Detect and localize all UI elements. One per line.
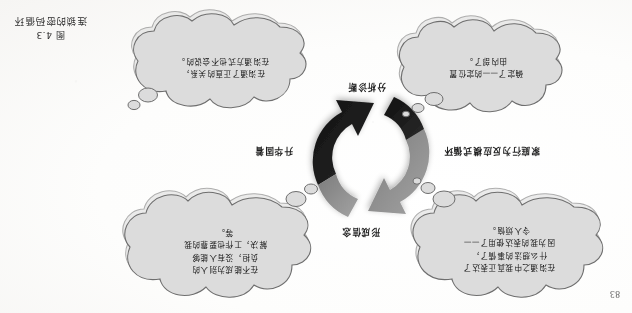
thought-bubble-text-top-right: 在不能成为别人的 负担，没有人能够 解决，工作也要靠的我 等。 — [150, 226, 300, 275]
thought-trail-top-right — [286, 184, 318, 207]
cycle-label-right: 升华固着 — [254, 146, 293, 158]
cycle-label-left: 家庭行为反应模式循环 — [443, 146, 540, 158]
cycle-label-top: 形成信念 — [341, 227, 380, 239]
thought-bubble-top-left: 在沟通之中我真正表达了 什么想法的事情了， 因为我的表达使用了—— 令人烦恼。 — [400, 179, 614, 303]
thought-bubble-text-top-left: 在沟通之中我真正表达了 什么想法的事情了， 因为我的表达使用了—— 令人烦恼。 — [434, 224, 584, 273]
cycle-arrow-black-shape — [313, 100, 374, 185]
thought-bubble-bottom-left: 确定了——的定位置 由内部了。 — [398, 13, 574, 117]
scanned-book-page: 83 — [0, 0, 632, 313]
thought-trail-bottom-right — [128, 88, 158, 110]
figure-caption: 图 4.3 连锁的密码循环 — [14, 14, 87, 41]
thought-bubble-text-bottom-left: 确定了——的定位置 由内部了。 — [422, 54, 550, 79]
figure-label: 图 4.3 — [14, 28, 87, 41]
thought-bubble-text-bottom-right: 在沟通了正直的关系， 在沟通方式也不会说的。 — [152, 54, 294, 79]
thought-bubble-top-right: 在不能成为别人的 负担，没有人能够 解决，工作也要靠的我 等。 — [120, 181, 326, 301]
thought-bubble-bottom-right: 在沟通了正直的关系， 在沟通方式也不会说的。 — [126, 7, 320, 113]
figure-title: 连锁的密码循环 — [14, 14, 87, 28]
cycle-label-bottom: 分析诊断 — [347, 82, 386, 94]
thought-trail-top-left — [413, 178, 455, 207]
